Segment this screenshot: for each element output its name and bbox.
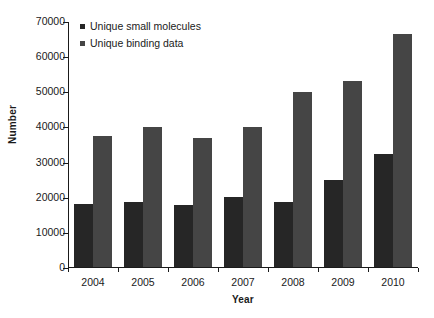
x-tick-mark — [168, 268, 169, 272]
x-tick-mark — [268, 268, 269, 272]
bar-chart: Number 010000200003000040000500006000070… — [0, 0, 434, 318]
x-tick-label: 2005 — [131, 276, 154, 288]
y-tick-label: 40000 — [36, 120, 65, 132]
x-tick-label: 2007 — [231, 276, 254, 288]
x-tick-label: 2009 — [331, 276, 354, 288]
x-tick-label: 2008 — [281, 276, 304, 288]
bar — [324, 180, 343, 267]
y-tick-label: 30000 — [36, 156, 65, 168]
y-tick-label: 50000 — [36, 85, 65, 97]
x-tick-mark — [318, 268, 319, 272]
x-tick-mark — [68, 268, 69, 272]
legend-item: Unique small molecules — [80, 19, 201, 34]
bar — [124, 202, 143, 267]
legend-item-label: Unique binding data — [90, 38, 183, 49]
y-tick-label: 60000 — [36, 50, 65, 62]
bar — [193, 138, 212, 267]
bar — [174, 205, 193, 267]
legend-square-marker-icon — [80, 24, 85, 29]
bar — [374, 154, 393, 267]
x-tick-mark — [418, 268, 419, 272]
bar — [293, 92, 312, 267]
bar — [74, 204, 93, 267]
legend-square-marker-icon — [80, 41, 85, 46]
bar — [243, 127, 262, 267]
bar — [143, 127, 162, 267]
y-axis-line — [68, 22, 69, 269]
legend-item: Unique binding data — [80, 36, 201, 51]
bar — [393, 34, 412, 267]
y-tick-label: 0 — [59, 261, 65, 273]
x-tick-mark — [218, 268, 219, 272]
bar — [93, 136, 112, 267]
y-tick-label: 10000 — [36, 226, 65, 238]
x-tick-label: 2006 — [181, 276, 204, 288]
x-axis-line — [68, 267, 418, 268]
x-tick-mark — [118, 268, 119, 272]
legend-item-label: Unique small molecules — [90, 21, 201, 32]
y-axis-title: Number — [7, 95, 18, 155]
y-tick-label: 20000 — [36, 191, 65, 203]
chart-legend: Unique small moleculesUnique binding dat… — [80, 19, 201, 53]
bar — [343, 81, 362, 267]
x-tick-label: 2004 — [81, 276, 104, 288]
bar — [224, 197, 243, 267]
plot-area: 010000200003000040000500006000070000 200… — [68, 22, 418, 268]
y-tick-label: 70000 — [36, 15, 65, 27]
x-tick-mark — [368, 268, 369, 272]
x-axis-title: Year — [68, 294, 418, 305]
bar — [274, 202, 293, 267]
x-tick-label: 2010 — [381, 276, 404, 288]
